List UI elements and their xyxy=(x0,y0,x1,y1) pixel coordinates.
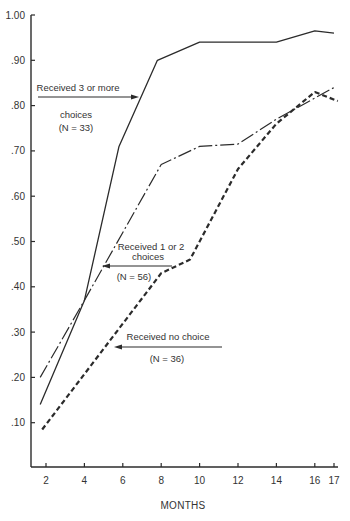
x-tick-label: 2 xyxy=(43,475,49,486)
annotation-label: choices xyxy=(60,109,92,120)
x-tick-label: 14 xyxy=(271,475,283,486)
x-tick-label: 8 xyxy=(158,475,164,486)
x-tick-label: 10 xyxy=(194,475,206,486)
annotation-label: choices xyxy=(132,251,164,262)
y-tick-label: .40 xyxy=(11,281,25,292)
arrow-head-icon xyxy=(131,95,139,100)
annotation-label: (N = 33) xyxy=(59,122,94,133)
y-tick-label: .80 xyxy=(11,100,25,111)
annotation-label: (N = 36) xyxy=(150,353,185,364)
annotation-no-choice: Received no choice (N = 36) xyxy=(114,331,222,364)
annotation-label: Received no choice xyxy=(127,331,210,342)
y-tick-label: 1.00 xyxy=(6,10,26,21)
arrow-head-icon xyxy=(102,264,110,269)
x-tick-label: 12 xyxy=(232,475,244,486)
y-tick-label: .10 xyxy=(11,417,25,428)
y-tick-label: .20 xyxy=(11,372,25,383)
y-tick-label: .30 xyxy=(11,327,25,338)
x-axis-title: MONTHS xyxy=(160,500,205,511)
x-tick-label: 6 xyxy=(120,475,126,486)
line-chart: .10.20.30.40.50.60.70.80.901.00246810121… xyxy=(0,0,350,521)
series-line-dashed xyxy=(42,92,338,430)
arrow-head-icon xyxy=(114,345,122,350)
annotation-3-or-more: Received 3 or more choices (N = 33) xyxy=(37,82,139,133)
chart-canvas: .10.20.30.40.50.60.70.80.901.00246810121… xyxy=(0,0,350,521)
annotation-label: (N = 56) xyxy=(117,271,152,282)
y-tick-label: .60 xyxy=(11,191,25,202)
x-tick-label: 17 xyxy=(328,475,340,486)
y-tick-label: .50 xyxy=(11,236,25,247)
y-tick-label: .90 xyxy=(11,55,25,66)
y-tick-label: .70 xyxy=(11,145,25,156)
x-tick-label: 4 xyxy=(82,475,88,486)
annotation-label: Received 3 or more xyxy=(37,82,120,93)
x-tick-label: 16 xyxy=(309,475,321,486)
